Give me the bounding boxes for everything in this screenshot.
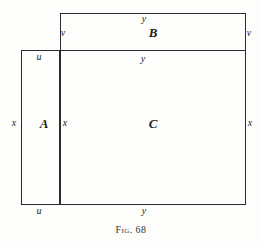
side-label-x-right: x xyxy=(248,118,252,128)
figure-68: B A C v v y u y x x x u y Fig. 68 xyxy=(0,0,262,246)
side-label-v-left: v xyxy=(61,28,65,38)
figure-caption: Fig. 68 xyxy=(0,224,262,235)
side-label-x-middle: x xyxy=(63,118,67,128)
side-label-x-left: x xyxy=(12,118,16,128)
side-label-v-right: v xyxy=(247,28,251,38)
side-label-y-bottom: y xyxy=(142,206,146,216)
caption-prefix: Fig. xyxy=(116,224,133,235)
caption-number: 68 xyxy=(133,224,147,235)
region-label-b: B xyxy=(149,26,158,39)
side-label-y-middle: y xyxy=(141,54,145,64)
side-label-u-bottom: u xyxy=(37,206,42,216)
region-label-c: C xyxy=(149,117,158,130)
side-label-u-top: u xyxy=(37,52,42,62)
region-label-a: A xyxy=(40,117,49,130)
side-label-y-top: y xyxy=(142,14,146,24)
